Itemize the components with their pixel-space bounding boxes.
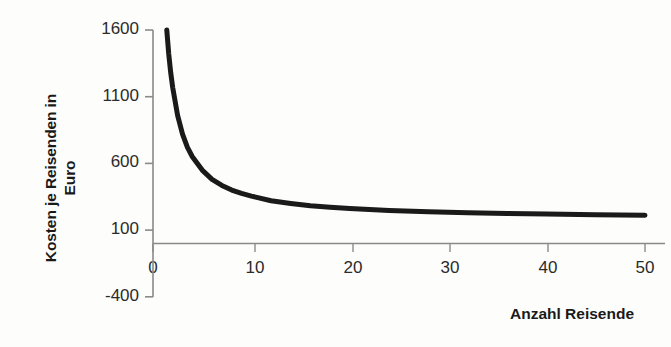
plot-area <box>0 0 671 347</box>
data-series-line <box>167 30 645 215</box>
x-axis-title: Anzahl Reisende <box>482 305 662 323</box>
chart-figure: Kosten je Reisenden in Euro 1600 1100 60… <box>0 0 671 347</box>
y-axis-ticks <box>145 30 153 297</box>
x-axis-ticks <box>153 244 645 253</box>
